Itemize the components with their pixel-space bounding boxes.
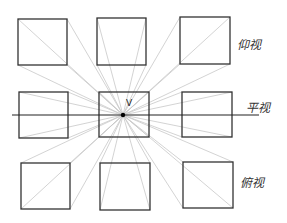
construction-line <box>19 92 123 115</box>
construction-line <box>123 115 183 208</box>
construction-line <box>21 115 123 163</box>
construction-line <box>21 115 123 209</box>
construction-line <box>123 115 232 137</box>
square-top-center <box>97 18 146 65</box>
construction-line <box>123 115 233 162</box>
construction-line <box>123 115 150 163</box>
construction-line <box>67 19 123 115</box>
label-upward-view: 仰视 <box>237 35 261 52</box>
vanishing-point-label: V <box>126 98 132 108</box>
label-eye-level-view: 平视 <box>246 98 270 115</box>
vanishing-point <box>121 113 125 117</box>
construction-line <box>18 65 123 115</box>
construction-line <box>123 64 230 115</box>
construction-line <box>97 65 123 115</box>
construction-line <box>99 92 123 115</box>
square-bottom-right <box>183 162 233 208</box>
square-bottom-center <box>100 163 150 210</box>
construction-lines <box>18 17 233 210</box>
construction-line <box>68 92 123 115</box>
construction-line <box>70 115 123 209</box>
construction-line <box>19 115 123 138</box>
label-downward-view: 俯视 <box>240 173 264 190</box>
construction-line <box>123 115 182 137</box>
construction-line <box>123 115 183 162</box>
construction-line <box>123 92 232 115</box>
construction-line <box>100 115 123 163</box>
construction-line <box>97 18 123 115</box>
